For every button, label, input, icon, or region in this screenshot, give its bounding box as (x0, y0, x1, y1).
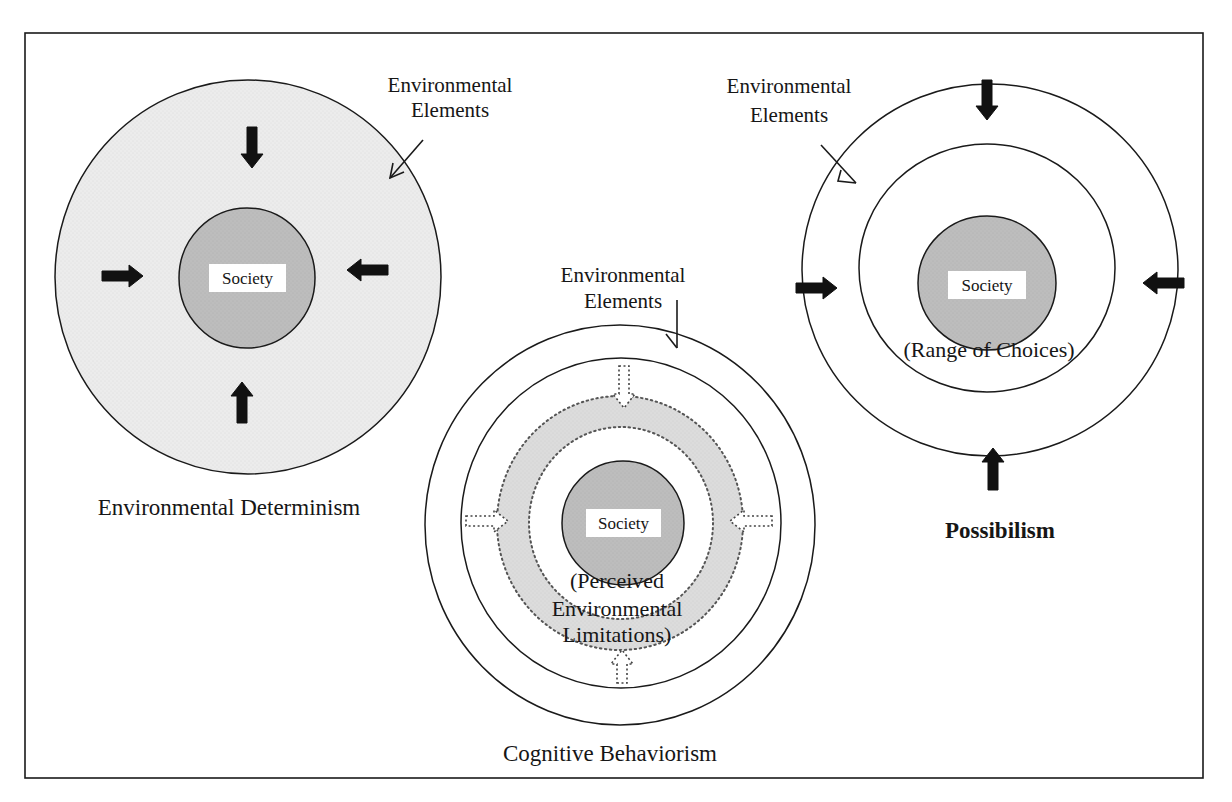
diagram-title: Possibilism (945, 518, 1055, 543)
environmental-elements-label: Environmental (727, 74, 852, 98)
diagram-title: Cognitive Behaviorism (503, 741, 717, 766)
society-label: Society (222, 269, 273, 288)
environmental-elements-label: Environmental (561, 263, 686, 287)
society-label: Society (598, 514, 649, 533)
environment-society-diagram: SocietyEnvironmentalElementsEnvironmenta… (0, 0, 1232, 802)
diagram-title: Environmental Determinism (98, 495, 361, 520)
sub-label-line: (Range of Choices) (903, 337, 1074, 362)
sub-label-line: (Perceived (570, 568, 664, 593)
environmental-elements-label: Elements (584, 289, 662, 313)
environmental-elements-label: Environmental (388, 73, 513, 97)
environmental-elements-label: Elements (750, 103, 828, 127)
sub-label-line: Environmental (552, 596, 683, 621)
figure-canvas: SocietyEnvironmentalElementsEnvironmenta… (0, 0, 1232, 802)
diagram-cognitive-behaviorism: Society(PerceivedEnvironmentalLimitation… (425, 263, 815, 766)
environmental-elements-label: Elements (411, 98, 489, 122)
society-label: Society (962, 276, 1013, 295)
sub-label-line: Limitations) (563, 622, 672, 647)
